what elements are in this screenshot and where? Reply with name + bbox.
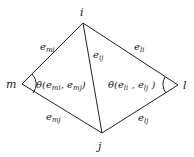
edge-label-lj: elj [138, 112, 149, 125]
angle-label-l: θ(eli , elj ) [108, 79, 155, 92]
edge-label-ij: eij [93, 49, 104, 62]
mesh-diagram: i j m l emi eij eli emj elj θ(emi, emj) … [0, 0, 194, 157]
vertex-label-l: l [183, 79, 187, 92]
edge-ij [83, 23, 102, 133]
edge-label-mj: emj [46, 111, 62, 124]
vertex-label-i: i [80, 6, 84, 19]
edge-label-mi: emi [40, 41, 55, 54]
edge-lj [102, 85, 178, 133]
angle-label-m: θ(emi, emj) [36, 79, 86, 92]
edge-label-li: eli [134, 41, 144, 54]
angle-arc-l [163, 77, 166, 93]
vertex-label-m: m [6, 78, 16, 91]
vertex-label-j: j [95, 140, 102, 153]
